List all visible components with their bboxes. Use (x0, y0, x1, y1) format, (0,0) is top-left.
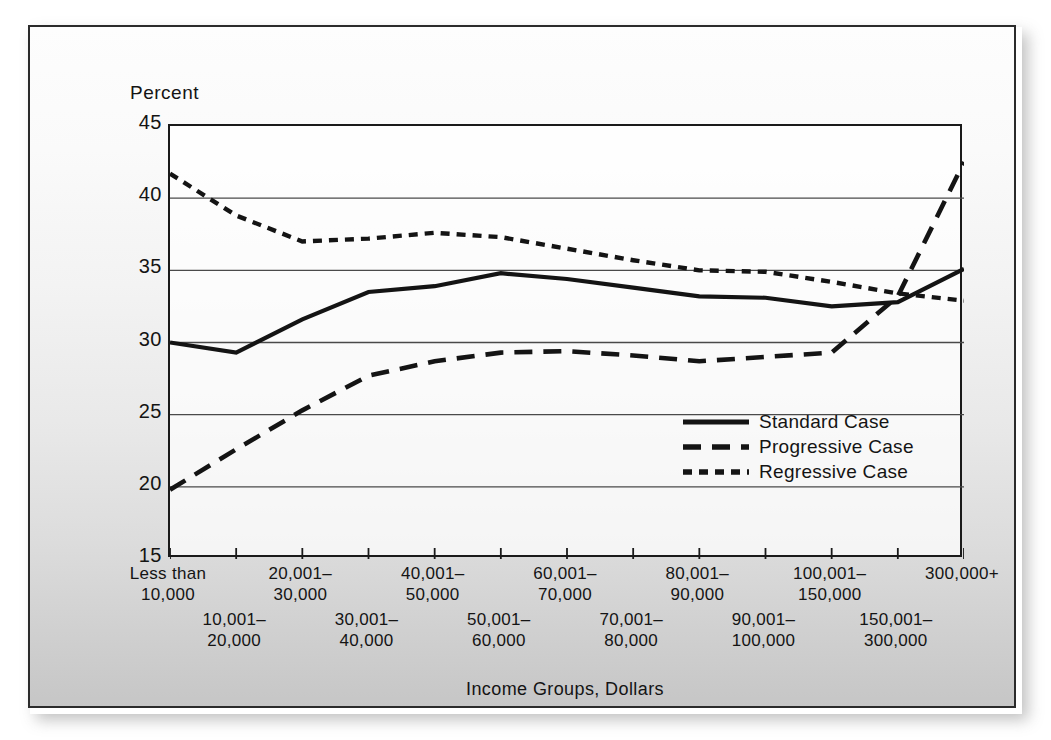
x-group-label: 60,001–70,000 (510, 563, 620, 605)
x-group-label-line2: 30,000 (245, 584, 355, 605)
x-group-label: 300,000+ (907, 563, 1017, 584)
x-group-label-line1: 300,000+ (907, 563, 1017, 584)
plot-area (168, 124, 962, 557)
x-group-label: 90,001–100,000 (709, 609, 819, 651)
x-group-label-line2: 10,000 (113, 584, 223, 605)
x-group-label: 80,001–90,000 (642, 563, 752, 605)
legend-label: Regressive Case (759, 461, 908, 483)
dotted-line-icon (681, 464, 751, 480)
figure-plate: Percent 45403530252015 Standard CaseProg… (28, 25, 1016, 708)
legend-label: Standard Case (759, 411, 890, 433)
x-group-label: 30,001–40,000 (312, 609, 422, 651)
x-group-label-line1: 20,001– (245, 563, 355, 584)
y-tick-label: 30 (118, 328, 162, 351)
chart-canvas (170, 126, 964, 559)
figure-root: Percent 45403530252015 Standard CaseProg… (0, 0, 1051, 740)
x-axis-group-labels: Less than10,00020,001–30,00040,001–50,00… (168, 559, 962, 677)
x-group-label: 50,001–60,000 (444, 609, 554, 651)
y-tick-label: 45 (118, 111, 162, 134)
x-group-label: 100,001–150,000 (775, 563, 885, 605)
x-group-label-line1: 30,001– (312, 609, 422, 630)
x-group-label-line2: 50,000 (378, 584, 488, 605)
x-group-label: 70,001–80,000 (576, 609, 686, 651)
x-group-label-line1: 40,001– (378, 563, 488, 584)
y-tick-labels: 45403530252015 (114, 124, 162, 557)
x-group-label-line1: 60,001– (510, 563, 620, 584)
x-group-label-line2: 80,000 (576, 630, 686, 651)
x-group-label: 10,001–20,000 (179, 609, 289, 651)
x-group-label-line1: 90,001– (709, 609, 819, 630)
x-group-label: 150,001–300,000 (841, 609, 951, 651)
x-group-label: 40,001–50,000 (378, 563, 488, 605)
x-group-label-line1: Less than (113, 563, 223, 584)
y-tick-label: 20 (118, 472, 162, 495)
x-group-label: Less than10,000 (113, 563, 223, 605)
x-group-label-line2: 40,000 (312, 630, 422, 651)
x-group-label-line2: 300,000 (841, 630, 951, 651)
x-axis-ticks (170, 548, 964, 559)
x-group-label-line1: 80,001– (642, 563, 752, 584)
x-group-label-line2: 60,000 (444, 630, 554, 651)
series-line-regressive-case (170, 174, 964, 301)
x-group-label-line1: 50,001– (444, 609, 554, 630)
legend-label: Progressive Case (759, 436, 914, 458)
x-group-label-line1: 150,001– (841, 609, 951, 630)
y-tick-label: 40 (118, 183, 162, 206)
x-group-label-line2: 20,000 (179, 630, 289, 651)
x-group-label-line1: 10,001– (179, 609, 289, 630)
x-group-label-line2: 150,000 (775, 584, 885, 605)
x-group-label: 20,001–30,000 (245, 563, 355, 605)
chart-legend: Standard CaseProgressive CaseRegressive … (681, 409, 931, 484)
x-group-label-line2: 70,000 (510, 584, 620, 605)
legend-item: Progressive Case (681, 434, 931, 459)
y-tick-label: 35 (118, 255, 162, 278)
legend-item: Standard Case (681, 409, 931, 434)
x-group-label-line1: 100,001– (775, 563, 885, 584)
x-axis-title: Income Groups, Dollars (168, 679, 962, 700)
y-axis-title: Percent (130, 82, 199, 104)
dashed-line-icon (681, 439, 751, 455)
x-group-label-line2: 90,000 (642, 584, 752, 605)
legend-item: Regressive Case (681, 459, 931, 484)
y-tick-label: 25 (118, 400, 162, 423)
x-group-label-line1: 70,001– (576, 609, 686, 630)
x-group-label-line2: 100,000 (709, 630, 819, 651)
solid-line-icon (681, 414, 751, 430)
